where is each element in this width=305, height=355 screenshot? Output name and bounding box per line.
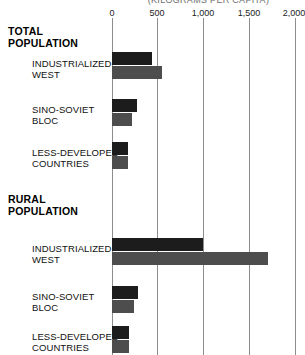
xtick-label-500: 500	[149, 8, 164, 18]
row-label-rural-industrialized-west: INDUSTRIALIZED WEST	[32, 243, 112, 265]
xtick-label-1500: 1,500	[238, 8, 261, 18]
row-label-total-industrialized-west: INDUSTRIALIZED WEST	[32, 58, 112, 80]
bar-rural-industrialized-west-series-2	[112, 252, 268, 265]
section-title-rural-population: RURAL POPULATION	[8, 194, 78, 217]
bar-rural-less-developed-countries-series-1	[112, 326, 129, 339]
bar-rural-sino-soviet-bloc-series-1	[112, 286, 138, 299]
bar-rural-industrialized-west-series-1	[112, 238, 203, 251]
row-label-rural-sino-soviet-bloc: SINO-SOVIET BLOC	[32, 291, 94, 313]
xtick-label-2000: 2,000	[283, 8, 305, 18]
gridline-1000	[203, 18, 204, 355]
row-label-total-less-developed-countries: LESS-DEVELOPED COUNTRIES	[32, 147, 119, 169]
row-label-total-sino-soviet-bloc: SINO-SOVIET BLOC	[32, 104, 94, 126]
bar-total-less-developed-countries-series-1	[112, 142, 128, 155]
bar-total-sino-soviet-bloc-series-1	[112, 99, 137, 112]
bar-rural-less-developed-countries-series-2	[112, 340, 129, 353]
bar-total-less-developed-countries-series-2	[112, 156, 128, 169]
bar-total-sino-soviet-bloc-series-2	[112, 113, 132, 126]
gridline-1500	[249, 18, 250, 355]
bar-chart: (KILOGRAMS PER CAPITA) 0 500 1,000 1,500…	[0, 0, 305, 355]
gridline-2000	[295, 18, 296, 355]
bar-rural-sino-soviet-bloc-series-2	[112, 300, 134, 313]
xtick-label-1000: 1,000	[192, 8, 215, 18]
bar-total-industrialized-west-series-1	[112, 52, 152, 65]
xtick-label-0: 0	[109, 8, 114, 18]
units-caption: (KILOGRAMS PER CAPITA)	[112, 0, 305, 5]
row-label-rural-less-developed-countries: LESS-DEVELOPED COUNTRIES	[32, 331, 119, 353]
bar-total-industrialized-west-series-2	[112, 66, 162, 79]
section-title-total-population: TOTAL POPULATION	[8, 26, 78, 49]
